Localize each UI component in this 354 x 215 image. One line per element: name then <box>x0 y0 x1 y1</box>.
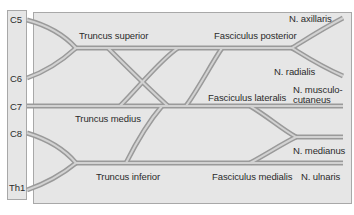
root-label-c8: C8 <box>10 129 22 139</box>
nerve-label-medianus: N. medianus <box>293 146 345 156</box>
root-label-c6: C6 <box>10 74 22 84</box>
cord-label-posterior: Fasciculus posterior <box>214 31 296 41</box>
cord-label-medialis: Fasciculus medialis <box>212 172 292 182</box>
trunk-label-superior: Truncus superior <box>79 31 148 41</box>
root-label-c5: C5 <box>10 15 22 25</box>
trunk-label-medius: Truncus medius <box>75 114 141 124</box>
cord-label-lateralis: Fasciculus lateralis <box>208 93 286 103</box>
root-label-c7: C7 <box>10 102 22 112</box>
nerve-paths <box>0 0 354 215</box>
trunk-label-inferior: Truncus inferior <box>96 172 160 182</box>
root-label-th1: Th1 <box>9 183 25 193</box>
nerve-label-ulnaris: N. ulnaris <box>301 172 340 182</box>
nerve-label-musculocutaneus-2: cutaneus <box>293 95 331 105</box>
nerve-label-axillaris: N. axillaris <box>289 14 332 24</box>
nerve-label-radialis: N. radialis <box>274 67 315 77</box>
